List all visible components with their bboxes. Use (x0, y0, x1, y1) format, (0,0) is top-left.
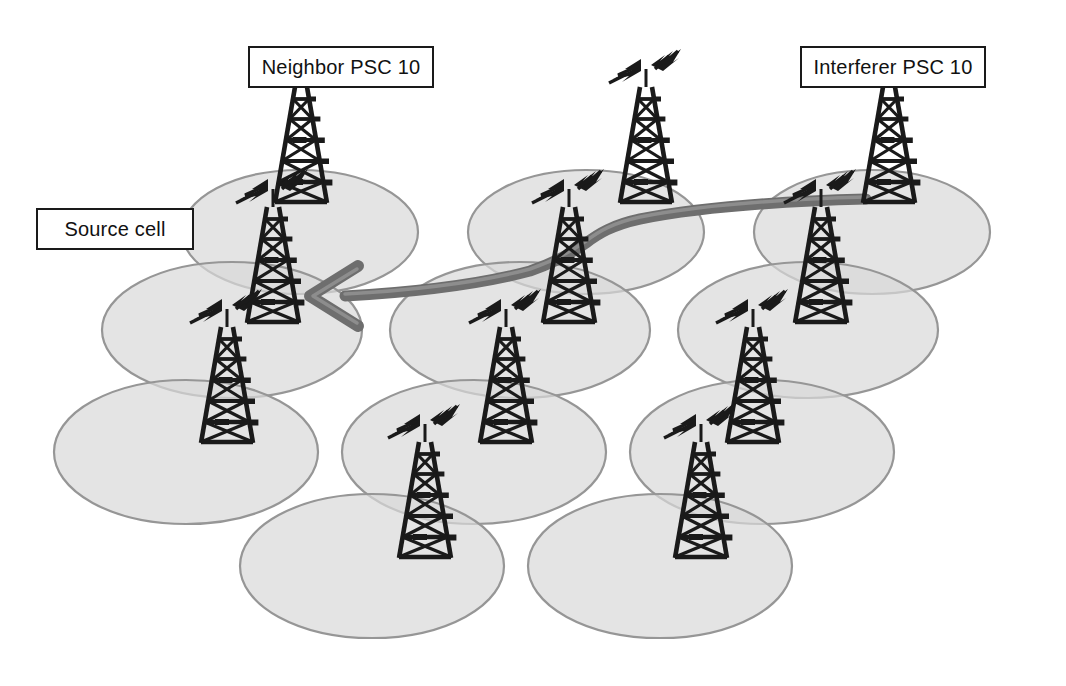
label-interferer-psc: Interferer PSC 10 (800, 46, 986, 88)
network-diagram: Neighbor PSC 10 Interferer PSC 10 Source… (0, 0, 1066, 686)
coverage-cell (240, 494, 504, 638)
diagram-canvas (0, 0, 1066, 686)
coverage-cell (528, 494, 792, 638)
coverage-cell (54, 380, 318, 524)
label-neighbor-psc: Neighbor PSC 10 (248, 46, 434, 88)
label-source-cell: Source cell (36, 208, 194, 250)
